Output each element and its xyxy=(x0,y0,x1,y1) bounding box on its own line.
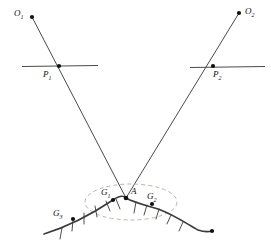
label-g3: G3 xyxy=(53,209,63,220)
diagram-svg xyxy=(0,0,271,242)
point-g1 xyxy=(111,198,115,202)
terrain-ridge-curve xyxy=(44,196,212,234)
label-g1: G1 xyxy=(101,188,111,199)
point-p1 xyxy=(57,64,61,68)
point-g3 xyxy=(71,217,75,221)
point-o1 xyxy=(30,15,34,19)
point-p2 xyxy=(211,64,215,68)
label-p1: P1 xyxy=(43,70,52,81)
hachure-ticks-left xyxy=(60,199,120,239)
sight-line-o1-a xyxy=(32,17,126,198)
sight-line-o2-a xyxy=(126,13,239,198)
point-a xyxy=(124,196,129,201)
baseline-right-line xyxy=(190,67,265,68)
point-curve-end-right xyxy=(210,229,214,233)
label-g2: G2 xyxy=(147,192,157,203)
label-o1: O1 xyxy=(14,9,24,20)
label-o2: O2 xyxy=(245,7,255,18)
figure-canvas: O1 O2 P1 P2 G1 A G2 G3 xyxy=(0,0,271,242)
point-o2 xyxy=(237,11,241,15)
label-p2: P2 xyxy=(213,70,222,81)
label-a: A xyxy=(131,187,137,196)
